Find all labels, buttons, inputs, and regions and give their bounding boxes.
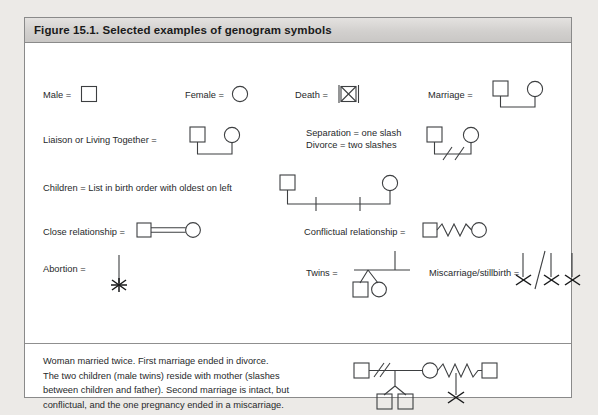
- children-symbol: [278, 171, 410, 215]
- abortion-label: Abortion =: [43, 264, 86, 276]
- abortion-symbol: [107, 253, 131, 297]
- male-symbol: [80, 84, 100, 104]
- close-relationship-symbol: [135, 220, 207, 242]
- conflictual-relationship-label: Conflictual relationship =: [304, 227, 406, 239]
- twins-symbol: [338, 249, 418, 301]
- miscarriage-symbol: [515, 249, 581, 295]
- marriage-symbol: [491, 78, 549, 112]
- death-symbol: [335, 82, 363, 106]
- conflictual-relationship-symbol: [421, 220, 497, 242]
- miscarriage-label: Miscarriage/stillbirth =: [429, 268, 519, 280]
- divorce-label: Divorce = two slashes: [306, 140, 397, 152]
- figure-title: Figure 15.1. Selected examples of genogr…: [34, 24, 332, 36]
- figure-header: Figure 15.1. Selected examples of genogr…: [25, 18, 571, 43]
- caption-text: Woman married twice. First marriage ende…: [43, 354, 289, 412]
- liaison-symbol: [188, 123, 246, 159]
- separation-divorce-symbol: [425, 123, 487, 163]
- children-label: Children = List in birth order with olde…: [43, 183, 232, 195]
- liaison-label: Liaison or Living Together =: [43, 135, 157, 147]
- death-label: Death =: [295, 90, 328, 102]
- male-label: Male =: [43, 90, 71, 102]
- marriage-label: Marriage =: [428, 90, 473, 102]
- figure-body: Male = Female = Death = Marriage =: [25, 43, 571, 397]
- section-divider: [25, 343, 571, 344]
- female-label: Female =: [185, 90, 224, 102]
- example-genogram: [352, 353, 506, 415]
- female-symbol: [231, 84, 251, 104]
- separation-label: Separation = one slash: [306, 128, 401, 140]
- figure-panel: Figure 15.1. Selected examples of genogr…: [24, 17, 572, 398]
- twins-label: Twins =: [306, 268, 338, 280]
- close-relationship-label: Close relationship =: [43, 227, 125, 239]
